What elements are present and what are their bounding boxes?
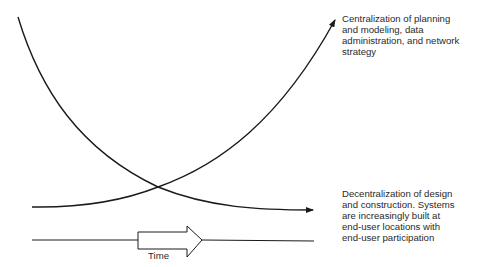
centralization-label-line: strategy	[342, 46, 459, 57]
time-label: Time	[148, 250, 169, 261]
centralization-label-line: and modeling, data	[342, 24, 459, 35]
decentralization-label-line: end-user locations with	[342, 221, 455, 232]
decentralization-label-line: are increasingly built at	[342, 210, 455, 221]
centralization-label-line: administration, and network	[342, 35, 459, 46]
centralization-label: Centralization of planning and modeling,…	[342, 13, 459, 57]
time-axis-line-right	[202, 240, 314, 241]
centralization-label-line: Centralization of planning	[342, 13, 459, 24]
decentralization-label-line: end-user participation	[342, 232, 455, 243]
decentralization-label: Decentralization of design and construct…	[342, 188, 455, 243]
decentralization-label-line: Decentralization of design	[342, 188, 455, 199]
centralization-curve	[32, 20, 335, 207]
decentralization-label-line: and construction. Systems	[342, 199, 455, 210]
